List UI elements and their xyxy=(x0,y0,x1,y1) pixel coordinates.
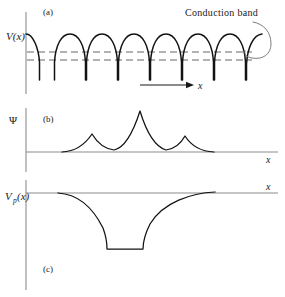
periodic-potential-curve xyxy=(26,34,262,80)
panel-c-y-axis-label-tail: (x) xyxy=(17,190,30,203)
panel-c-y-axis-label-main: V xyxy=(5,190,13,202)
panel-b-tag: (b) xyxy=(43,114,54,124)
wavefunction-curve xyxy=(62,111,214,152)
effective-potential-well-curve xyxy=(58,192,215,249)
panel-a-tag: (a) xyxy=(43,7,53,17)
figure-canvas: V(x) (a) Conduction band x Ψ (b) x V p xyxy=(0,0,285,297)
panel-c-x-axis-label: x xyxy=(265,181,271,192)
panel-b: Ψ (b) x xyxy=(9,108,278,172)
panel-b-x-axis-label: x xyxy=(265,154,271,165)
panel-a-x-axis-label: x xyxy=(197,80,203,91)
panel-c-tag: (c) xyxy=(43,264,53,274)
panel-b-y-axis-label: Ψ xyxy=(9,114,18,126)
panel-a-y-axis-label: V(x) xyxy=(6,30,25,43)
panel-c: V p (x) (c) x xyxy=(5,180,278,290)
figure-root: V(x) (a) Conduction band x Ψ (b) x V p xyxy=(0,0,285,297)
panel-a: V(x) (a) Conduction band x xyxy=(6,7,271,94)
panel-a-x-arrow-icon xyxy=(140,82,194,88)
conduction-band-annotation: Conduction band xyxy=(185,7,258,18)
